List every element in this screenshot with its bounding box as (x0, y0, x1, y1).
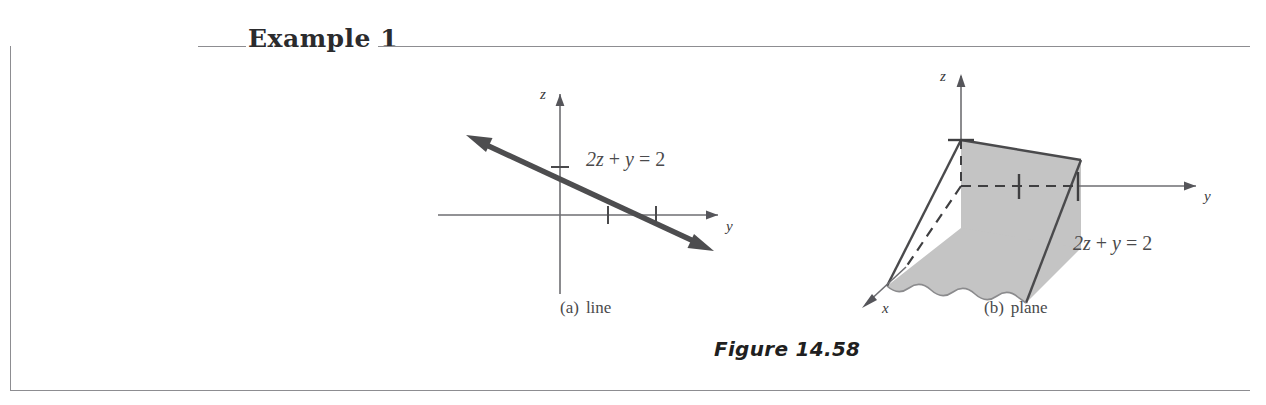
figure-page: Example 1 (0, 0, 1266, 405)
figure-panel-plane: z y x 2z+y=2 (830, 60, 1250, 322)
axis-label-y-b: y (1204, 188, 1211, 205)
panel-caption-line: (a)line (560, 298, 611, 318)
page-bleed-text (690, 0, 780, 4)
axis-label-y-a: y (726, 218, 733, 235)
panel-caption-plane: (b)plane (984, 298, 1048, 318)
plane-surface (887, 140, 1081, 303)
axis-label-z-b: z (940, 68, 946, 85)
axis-label-x-b: x (882, 300, 889, 317)
z-axis-line (556, 94, 565, 294)
equation-label-line: 2z+y=2 (586, 148, 665, 171)
equation-label-plane: 2z+y=2 (1073, 232, 1152, 255)
figure-number-label: Figure 14.58 (714, 337, 860, 361)
y-axis-line (438, 211, 718, 220)
frame-left-border (10, 46, 11, 391)
example-rule-left (198, 46, 246, 47)
example-heading: Example 1 (248, 24, 398, 53)
frame-bottom-border (10, 390, 1250, 391)
axis-label-z-a: z (540, 86, 546, 103)
figure-panel-line: z y 2z+y=2 (400, 72, 760, 322)
example-rule-right (378, 46, 1250, 47)
